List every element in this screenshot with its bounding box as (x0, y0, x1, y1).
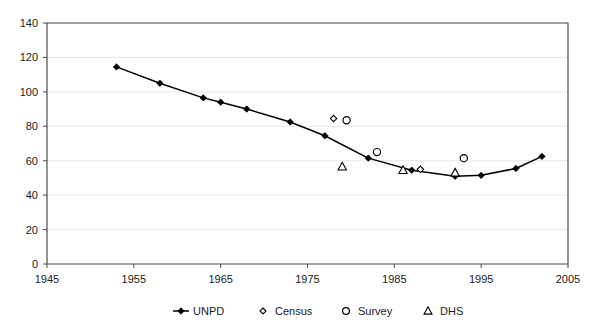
y-tick-label: 80 (26, 120, 38, 132)
y-tick-label: 20 (26, 224, 38, 236)
chart-container: 020406080100120140 194519551965197519851… (0, 0, 596, 330)
y-tick-label: 140 (20, 17, 38, 29)
x-tick-label: 1975 (295, 273, 319, 285)
marker-open-circle (373, 149, 380, 156)
y-tick-label: 100 (20, 86, 38, 98)
legend-label-survey: Survey (358, 305, 393, 317)
marker-open-circle (343, 117, 350, 124)
x-tick-label: 2005 (556, 273, 580, 285)
x-tick-label: 1995 (469, 273, 493, 285)
y-tick-label: 0 (32, 258, 38, 270)
x-tick-label: 1945 (35, 273, 59, 285)
legend-label-dhs: DHS (440, 305, 463, 317)
line-chart: 020406080100120140 194519551965197519851… (0, 0, 596, 330)
y-tick-label: 40 (26, 189, 38, 201)
x-tick-label: 1965 (208, 273, 232, 285)
marker-open-circle (343, 308, 350, 315)
y-tick-label: 120 (20, 51, 38, 63)
x-tick-label: 1985 (382, 273, 406, 285)
legend-label-census: Census (275, 305, 313, 317)
y-tick-label: 60 (26, 155, 38, 167)
marker-open-circle (460, 155, 467, 162)
legend-label-unpd: UNPD (193, 305, 224, 317)
x-tick-label: 1955 (122, 273, 146, 285)
chart-legend: UNPDCensusSurveyDHS (172, 300, 463, 320)
